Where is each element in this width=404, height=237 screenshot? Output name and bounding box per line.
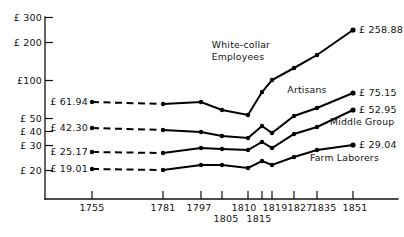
y-label-200: £ 200 [14,37,42,48]
y-label-40: £ 40 [20,126,42,137]
data-point [161,128,165,132]
data-point [270,131,274,135]
y-label-100: £100 [17,75,42,86]
series-middle-group-dashed-segment [92,152,163,153]
data-point [350,90,355,95]
y-label-300: £ 300 [14,12,42,23]
start-label-farm-laborers: £ 19.01 [50,163,88,174]
data-point [90,167,94,171]
data-point [199,100,203,104]
data-point [292,155,296,159]
x-label-1815: 1815 [247,213,272,224]
data-point [161,102,165,106]
series-label-artisans: Artisans [287,84,326,95]
start-label-white-collar: £ 61.94 [50,96,88,107]
data-point [246,148,250,152]
data-point [220,147,224,151]
y-label-30: £ 30 [20,140,42,151]
chart-container: £ 300 £ 200 £100 £ 50 £ 40 £ 30 £ 20 175… [0,0,404,237]
data-point [90,100,94,104]
x-axis-labels-lower: 1805 1815 [214,213,272,224]
series-label-white-collar-line2: Employees [212,51,265,62]
data-point [260,90,264,94]
end-label-middle-group: £ 52.95 [359,104,397,115]
x-label-1835: 1835 [312,202,337,213]
start-value-labels: £ 61.94 £ 42.30 £ 25.17 £ 19.01 [50,96,88,174]
data-point [270,146,274,150]
data-point [292,66,296,70]
wage-trends-line-chart: £ 300 £ 200 £100 £ 50 £ 40 £ 30 £ 20 175… [0,0,404,237]
x-label-1851: 1851 [343,202,368,213]
x-axis-ticks [92,191,353,199]
y-axis-labels: £ 300 £ 200 £100 £ 50 £ 40 £ 30 £ 20 [14,12,42,176]
data-point [220,108,224,112]
series-white-collar-dashed-segment [92,102,163,104]
data-point [315,125,319,129]
data-point [220,163,224,167]
data-point [260,159,264,163]
x-label-1805: 1805 [214,213,239,224]
end-label-farm-laborers: £ 29.04 [359,139,397,150]
data-point [199,163,203,167]
data-point [246,136,250,140]
end-label-white-collar: £ 258.88 [359,24,403,35]
x-label-1797: 1797 [187,202,212,213]
x-label-1810: 1810 [232,202,257,213]
x-label-1819: 1819 [263,202,288,213]
data-point [350,107,355,112]
end-label-artisans: £ 75.15 [359,87,397,98]
series-farm-laborers-dashed-segment [92,169,163,170]
data-point [199,146,203,150]
series-label-white-collar-line1: White-collar [212,39,270,50]
data-point [315,53,319,57]
data-point [292,114,296,118]
data-point [315,106,319,110]
series-middle-group [90,107,356,155]
series-label-farm-laborers: Farm Laborers [310,152,379,163]
data-point [246,166,250,170]
data-point [350,27,355,32]
series-artisans-dashed-segment [92,128,163,130]
data-point [246,113,250,117]
data-point [90,150,94,154]
start-label-artisans: £ 42.30 [50,122,88,133]
data-point [90,126,94,130]
data-point [350,142,355,147]
y-label-50: £ 50 [20,113,42,124]
start-label-middle-group: £ 25.17 [50,146,88,157]
data-point [220,134,224,138]
data-point [270,78,274,82]
series-label-middle-group: Middle Group [330,116,394,127]
data-point [292,132,296,136]
series-artisans [90,90,356,140]
x-label-1755: 1755 [80,202,105,213]
data-point [199,130,203,134]
x-label-1781: 1781 [151,202,176,213]
x-axis-labels-upper: 1755 1781 1797 1810 1819 1827 1835 1851 [80,202,368,213]
data-point [260,140,264,144]
data-point [161,151,165,155]
data-point [270,163,274,167]
x-label-1827: 1827 [288,202,313,213]
data-point [260,124,264,128]
y-label-20: £ 20 [20,165,42,176]
end-value-labels: £ 258.88 £ 75.15 £ 52.95 £ 29.04 [359,24,403,150]
data-point [161,168,165,172]
